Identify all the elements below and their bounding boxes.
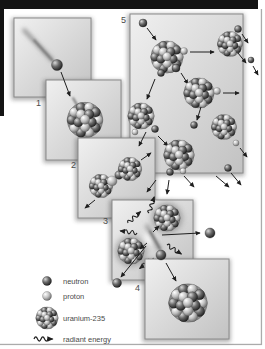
panel-4-label: 4 — [135, 283, 140, 293]
neutron-icon — [139, 19, 147, 27]
fission-diagram: 1 2 3 4 5 neutron proton uranium-235 rad… — [0, 0, 265, 349]
neutron-icon — [248, 57, 254, 63]
uranium-235-icon — [211, 115, 236, 140]
legend-item-neutron: neutron — [43, 277, 89, 287]
legend-label: proton — [63, 292, 84, 301]
neutron-icon — [191, 122, 198, 129]
proton-icon — [180, 168, 186, 174]
neutron-icon — [235, 26, 242, 33]
frame-bottom-line — [0, 344, 262, 345]
arrow-icon — [253, 66, 258, 75]
panel-3-label: 3 — [103, 216, 108, 226]
neutron-icon — [152, 126, 159, 133]
neutron-icon — [225, 165, 232, 172]
arrow-icon — [184, 176, 194, 187]
neutron-icon — [43, 277, 52, 286]
uranium-235-icon — [217, 32, 242, 57]
fission-lobe-icon — [118, 157, 142, 180]
fission-fragment-icon — [118, 238, 145, 264]
panel-4-next-absorption — [143, 250, 231, 342]
arrow-icon — [167, 180, 169, 194]
radiant-energy-icon — [34, 337, 53, 341]
legend-item-proton: proton — [43, 292, 85, 302]
proton-icon — [43, 292, 52, 301]
neutron-icon — [52, 60, 63, 71]
legend: neutron proton uranium-235 radiant energ… — [34, 277, 111, 345]
proton-icon — [132, 129, 138, 135]
neutron-icon — [172, 64, 180, 72]
neutron-icon — [167, 169, 174, 176]
legend-item-radiant-energy: radiant energy — [34, 335, 111, 344]
panel-1-label: 1 — [36, 98, 41, 108]
uranium-235-icon — [128, 103, 155, 129]
neutron-icon — [158, 70, 165, 77]
neutron-icon — [156, 250, 166, 260]
proton-icon — [214, 88, 221, 95]
left-black-bar — [0, 0, 4, 116]
uranium-235-icon — [67, 102, 103, 137]
legend-label: radiant energy — [63, 335, 111, 344]
panel-5-label: 5 — [121, 15, 126, 25]
neutron-icon — [205, 228, 215, 238]
panel-2-label: 2 — [71, 160, 76, 170]
neutron-icon — [113, 279, 122, 288]
arrow-icon — [216, 176, 229, 187]
proton-icon — [233, 140, 239, 146]
uranium-235-icon — [184, 78, 215, 108]
legend-item-uranium-235: uranium-235 — [36, 307, 105, 329]
legend-label: neutron — [63, 277, 88, 286]
uranium-235-icon — [36, 307, 58, 329]
legend-label: uranium-235 — [63, 314, 105, 323]
proton-icon — [181, 48, 188, 55]
uranium-235-icon — [164, 140, 195, 170]
top-black-bar — [0, 0, 258, 9]
frame-right-line — [261, 9, 262, 345]
uranium-235-icon — [169, 284, 208, 322]
